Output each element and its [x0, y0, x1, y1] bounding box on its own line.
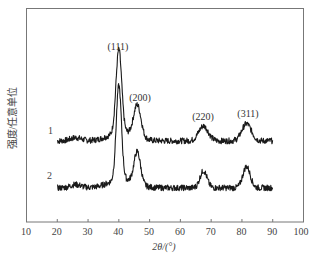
series-2-curve [57, 84, 272, 191]
peak-label-111: (111) [108, 41, 129, 53]
x-tick-label: 20 [52, 226, 62, 237]
series-1-curve [57, 47, 272, 144]
x-tick-label: 70 [206, 226, 216, 237]
x-axis-title: 2θ/(°) [152, 241, 176, 253]
plot-frame [27, 9, 304, 223]
peak-label-311: (311) [237, 108, 258, 120]
x-tick-label: 80 [236, 226, 246, 237]
x-tick-labels: 10 20 30 40 50 60 70 80 90 100 [21, 226, 309, 237]
x-tick-label: 30 [83, 226, 93, 237]
x-tick-label: 90 [267, 226, 277, 237]
xrd-chart: 10 20 30 40 50 60 70 80 90 100 2θ/(°) 强度… [0, 0, 318, 265]
x-tick-label: 10 [21, 226, 31, 237]
peak-label-220: (220) [192, 111, 214, 123]
x-tick-label: 100 [294, 226, 309, 237]
x-tick-label: 50 [144, 226, 154, 237]
peak-label-200: (200) [129, 92, 151, 104]
series-1-label: 1 [48, 125, 53, 136]
y-axis-title: 强度/任意单位 [6, 87, 18, 150]
x-tick-label: 60 [175, 226, 185, 237]
series-2-label: 2 [47, 170, 52, 181]
x-tick-label: 40 [113, 226, 123, 237]
